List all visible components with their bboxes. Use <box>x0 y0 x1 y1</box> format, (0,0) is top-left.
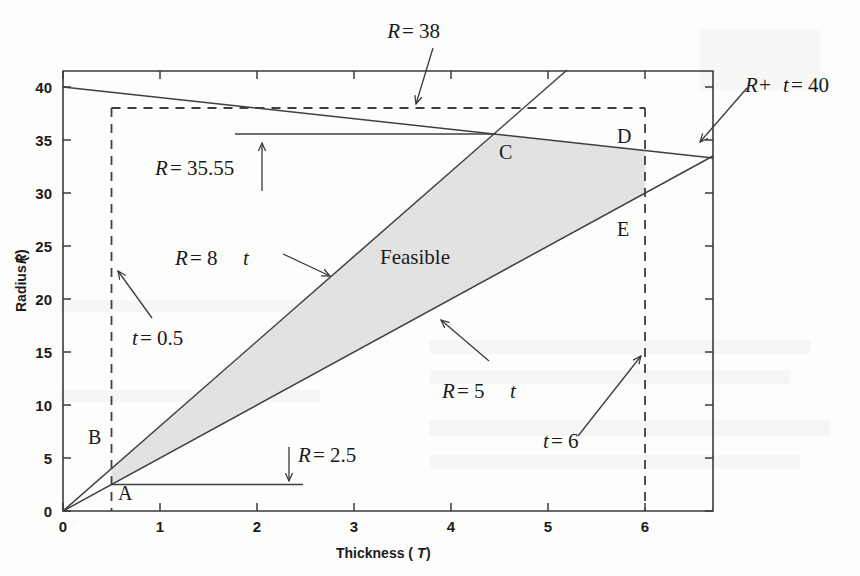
annotation-t05-text: = 0.5 <box>140 326 183 350</box>
annotation-R25-text: = 2.5 <box>313 443 356 467</box>
annotation-R3555-text: = 35.55 <box>170 156 234 180</box>
x-axis-title-close: ) <box>426 545 431 561</box>
annotation-t6-text: = 6 <box>551 429 579 453</box>
y-axis-title-close: ) <box>13 249 29 254</box>
feasible-region-label: Feasible <box>380 245 450 269</box>
x-tick-label-4: 4 <box>447 518 456 535</box>
annotation-Rt40-text: = 40 <box>791 73 829 97</box>
annotation-R-equals-38: R = 38 <box>386 19 440 104</box>
vertex-label-A: A <box>118 482 133 504</box>
x-tick-label-6: 6 <box>641 518 649 535</box>
annotation-R8t-var2: t <box>243 246 250 270</box>
x-tick-labels: 0 1 2 3 4 5 6 <box>59 518 649 535</box>
annotation-R3555-var: R <box>154 156 168 180</box>
annotation-R5t-text: = 5 <box>457 379 485 403</box>
y-tick-label-20: 20 <box>35 291 52 308</box>
feasible-region-chart: 0 1 2 3 4 5 6 <box>0 0 860 576</box>
y-tick-label-25: 25 <box>35 238 52 255</box>
annotation-R-equals-8t: R = 8 t <box>174 246 330 276</box>
line-R-plus-t-equals-40 <box>63 87 713 158</box>
x-axis-title: Thickness ( T ) <box>336 545 431 561</box>
annotation-R-equals-2p5: R = 2.5 <box>289 443 356 481</box>
annotation-Rt40-var1: R <box>744 73 758 97</box>
vertex-label-E: E <box>617 218 629 240</box>
y-tick-label-0: 0 <box>44 503 52 520</box>
annotation-R8t-text: = 8 <box>190 246 218 270</box>
y-axis-title: Radius ( R ) <box>13 249 29 312</box>
x-tick-label-0: 0 <box>59 518 67 535</box>
annotation-Rt40-plus: + <box>759 73 771 97</box>
y-tick-labels: 0 5 10 15 20 25 30 35 40 <box>35 79 52 520</box>
annotation-t05-var: t <box>132 326 139 350</box>
y-tick-label-10: 10 <box>35 397 52 414</box>
y-tick-label-15: 15 <box>35 344 52 361</box>
annotation-R-equals-5t: R = 5 t <box>441 320 517 403</box>
figure-container: 0 1 2 3 4 5 6 <box>0 0 860 576</box>
x-tick-label-5: 5 <box>544 518 552 535</box>
x-axis-title-text: Thickness ( <box>336 545 413 561</box>
annotation-R-equals-38-var: R <box>386 19 400 43</box>
y-tick-label-35: 35 <box>35 132 52 149</box>
vertex-label-C: C <box>499 141 512 163</box>
annotation-R-equals-38-text: = 38 <box>402 19 440 43</box>
annotation-R25-var: R <box>297 443 311 467</box>
x-tick-label-1: 1 <box>156 518 164 535</box>
vertex-label-D: D <box>617 125 631 147</box>
y-tick-label-40: 40 <box>35 79 52 96</box>
annotation-R8t-var: R <box>174 246 188 270</box>
feasible-text: Feasible <box>380 245 450 269</box>
x-tick-label-2: 2 <box>253 518 261 535</box>
annotation-R5t-var: R <box>441 379 455 403</box>
x-tick-label-3: 3 <box>350 518 358 535</box>
annotation-R-equals-35p55: R = 35.55 <box>154 143 262 191</box>
y-tick-label-5: 5 <box>44 450 52 467</box>
y-tick-label-30: 30 <box>35 185 52 202</box>
vertex-label-B: B <box>88 426 101 448</box>
